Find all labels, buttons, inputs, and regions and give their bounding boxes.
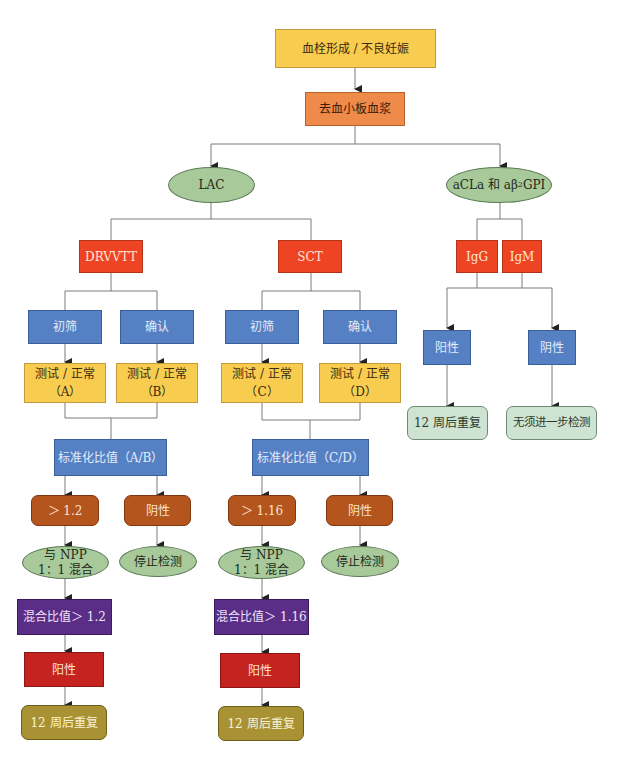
mid-mix-ratio-node: 混合比值＞ 1.16 — [214, 599, 309, 635]
acl-prefix: aCLa 和 aβ — [453, 176, 518, 194]
left-neg-node: 阴性 — [124, 495, 191, 526]
left-stop-node: 停止检测 — [119, 546, 197, 577]
start-node-thrombosis: 血栓形成 / 不良妊娠 — [275, 29, 436, 68]
mid-mix-line2: 1：1 混合 — [234, 563, 289, 578]
left-screen-node: 初筛 — [28, 310, 102, 344]
right-positive-node: 阳性 — [423, 330, 471, 365]
test-b-line1: 测试 / 正常 — [127, 365, 187, 383]
left-gt-node: ＞ 1.2 — [31, 495, 99, 526]
acl-suffix: GPI — [523, 176, 545, 194]
test-d-line1: 测试 / 正常 — [330, 365, 390, 383]
mid-gt-node: ＞ 1.16 — [228, 495, 296, 526]
test-d-node: 测试 / 正常 （D） — [319, 363, 401, 403]
platelet-poor-plasma-node: 去血小板血浆 — [305, 92, 405, 126]
drvvt-node: DRVVTT — [79, 240, 143, 273]
right-no-further-node: 无须进一步检测 — [506, 406, 597, 440]
test-c-node: 测试 / 正常 （C） — [221, 363, 303, 403]
mid-mix-line1: 与 NPP — [240, 548, 282, 563]
test-a-line1: 测试 / 正常 — [35, 365, 95, 383]
left-mix-line2: 1：1 混合 — [38, 563, 93, 578]
left-mix-node: 与 NPP 1：1 混合 — [22, 546, 109, 579]
mid-neg-node: 阴性 — [326, 495, 393, 526]
test-c-line1: 测试 / 正常 — [232, 365, 292, 383]
acl-ab2gpi-node: aCLa 和 aβ2GPI — [446, 167, 552, 203]
test-a-line2: （A） — [49, 383, 82, 401]
mid-mix-node: 与 NPP 1：1 混合 — [218, 546, 305, 579]
test-a-node: 测试 / 正常 （A） — [24, 363, 106, 403]
left-mix-line1: 与 NPP — [44, 548, 86, 563]
mid-repeat-node: 12 周后重复 — [218, 706, 304, 741]
igm-node: IgM — [502, 240, 542, 273]
mid-confirm-node: 确认 — [323, 310, 397, 344]
test-b-node: 测试 / 正常 （B） — [116, 363, 198, 403]
mid-stop-node: 停止检测 — [321, 546, 399, 577]
ratio-cd-node: 标准化比值（C/D） — [252, 439, 369, 476]
mid-screen-node: 初筛 — [225, 310, 299, 344]
left-positive-node: 阳性 — [24, 652, 104, 687]
test-b-line2: （B） — [141, 383, 174, 401]
test-d-line2: （D） — [343, 383, 377, 401]
lac-node: LAC — [168, 167, 255, 203]
left-mix-ratio-node: 混合比值＞ 1.2 — [17, 599, 112, 635]
right-repeat-node: 12 周后重复 — [407, 406, 488, 440]
left-confirm-node: 确认 — [120, 310, 194, 344]
igg-node: IgG — [456, 240, 498, 273]
sct-node: SCT — [278, 240, 342, 273]
mid-positive-node: 阳性 — [220, 653, 300, 688]
left-repeat-node: 12 周后重复 — [21, 705, 107, 740]
ratio-ab-node: 标准化比值（A/B） — [54, 439, 167, 476]
test-c-line2: （C） — [245, 383, 278, 401]
right-negative-node: 阴性 — [528, 330, 576, 365]
